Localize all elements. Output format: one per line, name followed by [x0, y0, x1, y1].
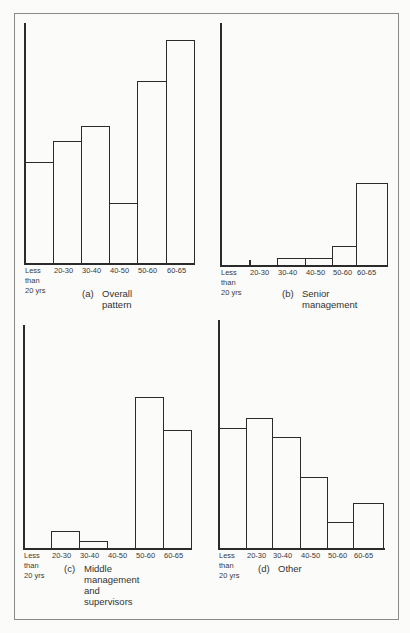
- chart-panel-d: Lessthan20 yrs20-3030-4040-5050-6060-65 …: [0, 0, 410, 633]
- x-tick-label-line: than: [219, 561, 249, 571]
- caption-line: (d)Other: [258, 563, 302, 574]
- caption-tag: (d): [258, 563, 278, 574]
- bar-4: [300, 477, 328, 548]
- x-tick-label-line: Less: [219, 551, 249, 561]
- chart-caption: (d)Other: [258, 563, 302, 574]
- x-tick-label: 40-50: [301, 551, 320, 561]
- x-tick-label: 50-60: [328, 551, 347, 561]
- x-tick-label: 20-30: [247, 551, 266, 561]
- x-axis: [218, 548, 385, 550]
- x-tick-label: 30-40: [273, 551, 292, 561]
- bar-5: [327, 522, 354, 548]
- x-tick-label-less-than-20: Lessthan20 yrs: [219, 551, 249, 581]
- x-tick-label-line: 20 yrs: [219, 571, 249, 581]
- bar-6: [353, 503, 384, 548]
- bar-1: [219, 428, 247, 548]
- bar-2: [246, 418, 273, 548]
- bar-3: [272, 437, 301, 548]
- x-tick-label: 60-65: [354, 551, 373, 561]
